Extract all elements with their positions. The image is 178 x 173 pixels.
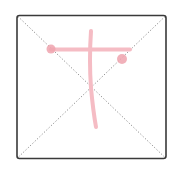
start-dot-left bbox=[47, 45, 56, 54]
end-dot-right bbox=[117, 54, 127, 64]
stroke-practice-diagram bbox=[0, 0, 178, 173]
